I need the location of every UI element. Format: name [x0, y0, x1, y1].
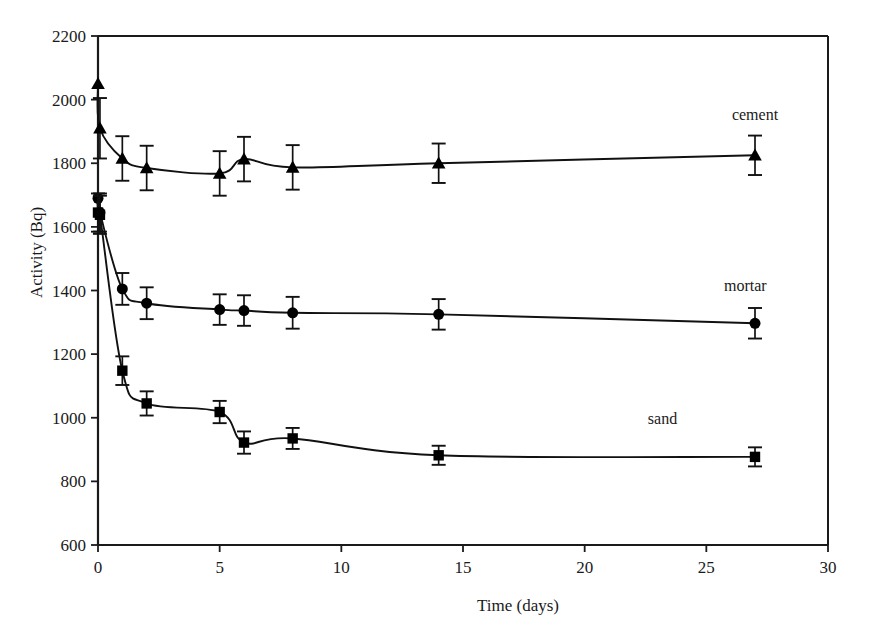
- y-tick-label: 2200: [52, 27, 86, 46]
- x-tick-label: 20: [576, 558, 593, 577]
- series-label-cement: cement: [732, 106, 779, 123]
- y-axis-title: Activity (Bq): [27, 207, 46, 298]
- data-point-sand: [214, 407, 224, 417]
- data-point-cement: [91, 77, 105, 89]
- x-tick-label: 5: [215, 558, 224, 577]
- data-point-cement: [93, 121, 107, 133]
- figure-container: 6008001000120014001600180020002200051015…: [0, 0, 879, 642]
- y-tick-label: 1800: [52, 154, 86, 173]
- data-point-sand: [750, 452, 760, 462]
- data-point-mortar: [117, 283, 128, 294]
- data-point-sand: [433, 450, 443, 460]
- x-axis-title: Time (days): [477, 596, 559, 615]
- series-line-mortar: [97, 198, 755, 323]
- data-point-mortar: [287, 307, 298, 318]
- data-point-sand: [117, 365, 127, 375]
- series-label-mortar: mortar: [724, 277, 767, 294]
- data-point-sand: [287, 433, 297, 443]
- cropped-caption-artifact: [120, 0, 740, 6]
- data-point-mortar: [214, 304, 225, 315]
- data-point-mortar: [239, 305, 250, 316]
- x-tick-label: 25: [698, 558, 715, 577]
- y-tick-label: 600: [61, 536, 87, 555]
- y-tick-label: 1600: [52, 218, 86, 237]
- series-line-cement: [97, 84, 755, 174]
- data-point-mortar: [433, 309, 444, 320]
- y-tick-label: 800: [61, 472, 87, 491]
- y-tick-label: 1200: [52, 345, 86, 364]
- series-label-sand: sand: [648, 410, 677, 427]
- x-tick-label: 10: [333, 558, 350, 577]
- data-point-mortar: [141, 298, 152, 309]
- y-tick-label: 1000: [52, 409, 86, 428]
- y-tick-label: 2000: [52, 91, 86, 110]
- activity-vs-time-line-chart: 6008001000120014001600180020002200051015…: [0, 0, 879, 642]
- data-point-sand: [95, 210, 105, 220]
- x-tick-label: 30: [820, 558, 837, 577]
- data-point-sand: [141, 398, 151, 408]
- y-tick-label: 1400: [52, 282, 86, 301]
- data-point-mortar: [750, 318, 761, 329]
- x-tick-label: 0: [94, 558, 103, 577]
- data-point-sand: [239, 437, 249, 447]
- x-tick-label: 15: [455, 558, 472, 577]
